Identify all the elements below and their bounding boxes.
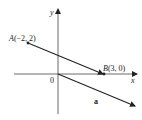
x-axis-label: x (130, 76, 135, 85)
segment-ab (28, 43, 103, 74)
point-b (103, 73, 106, 76)
origin-label: 0 (50, 76, 54, 85)
point-a-label: A(−2, 2) (8, 34, 36, 43)
point-a-coords: (−2, 2) (14, 34, 36, 43)
point-b-coords: (3, 0) (108, 64, 126, 73)
vector-a-label: a (94, 97, 98, 106)
vector-diagram: y x 0 A(−2, 2) B(3, 0) a (0, 0, 142, 120)
y-axis-label: y (49, 8, 54, 17)
point-b-label: B(3, 0) (103, 64, 126, 73)
